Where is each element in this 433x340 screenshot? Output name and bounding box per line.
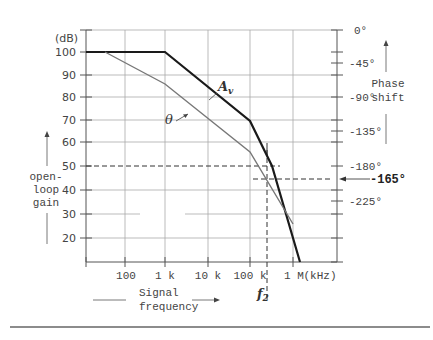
svg-text:loop: loop [33, 184, 59, 196]
svg-text:40: 40 [62, 184, 76, 197]
bode-plot: (dB) 100 90 80 70 60 50 40 30 20 100 1 k… [0, 0, 433, 340]
svg-text:open-: open- [29, 171, 62, 183]
arrow-head-icon [339, 177, 346, 182]
svg-text:-45°: -45° [349, 58, 375, 70]
av-curve [86, 52, 300, 262]
svg-text:(kHz): (kHz) [303, 270, 336, 282]
x-tick-labels: 100 1 k 10 k 100 k 1 M (kHz) [116, 270, 336, 282]
svg-text:80: 80 [62, 91, 76, 104]
svg-text:100: 100 [55, 46, 76, 59]
x-axis-title: Signal frequency [139, 287, 199, 313]
svg-text:(dB): (dB) [55, 32, 78, 45]
phase-165-label: -165° [370, 173, 406, 187]
theta-label: θ [165, 112, 173, 127]
svg-text:60: 60 [62, 136, 76, 149]
grid [86, 30, 337, 262]
svg-text:30: 30 [62, 208, 76, 221]
arrow-right-icon [214, 298, 220, 303]
svg-text:-225°: -225° [349, 196, 382, 208]
svg-text:Phase: Phase [371, 78, 404, 90]
axes [80, 30, 343, 267]
av-label: Av [216, 79, 234, 96]
svg-text:1 M: 1 M [284, 270, 304, 282]
svg-text:50: 50 [62, 160, 76, 173]
svg-text:gain: gain [33, 197, 59, 209]
svg-text:frequency: frequency [139, 301, 199, 313]
right-axis-title: Phase shift [371, 78, 404, 104]
svg-text:0°: 0° [354, 25, 367, 37]
right-tick-labels: 0° -45° -90° -135° -180° -225° -165° [349, 25, 406, 208]
svg-text:100 k: 100 k [233, 270, 266, 282]
left-axis-title: open- loop gain [29, 171, 62, 209]
svg-text:-180°: -180° [349, 161, 382, 173]
av-pointer [209, 93, 217, 100]
svg-text:Signal: Signal [139, 287, 179, 299]
svg-text:90: 90 [62, 69, 76, 82]
svg-text:1 k: 1 k [155, 270, 175, 282]
svg-text:-135°: -135° [349, 126, 382, 138]
svg-text:100: 100 [116, 270, 136, 282]
svg-text:shift: shift [371, 92, 404, 104]
svg-text:10 k: 10 k [195, 270, 222, 282]
left-tick-labels: (dB) 100 90 80 70 60 50 40 30 20 [55, 32, 78, 245]
theta-curve [105, 52, 293, 224]
arrow-up-icon [384, 40, 389, 46]
arrow-up-icon [45, 131, 50, 137]
arrow-head-icon [183, 114, 188, 118]
svg-text:70: 70 [62, 114, 76, 127]
svg-text:20: 20 [62, 232, 76, 245]
